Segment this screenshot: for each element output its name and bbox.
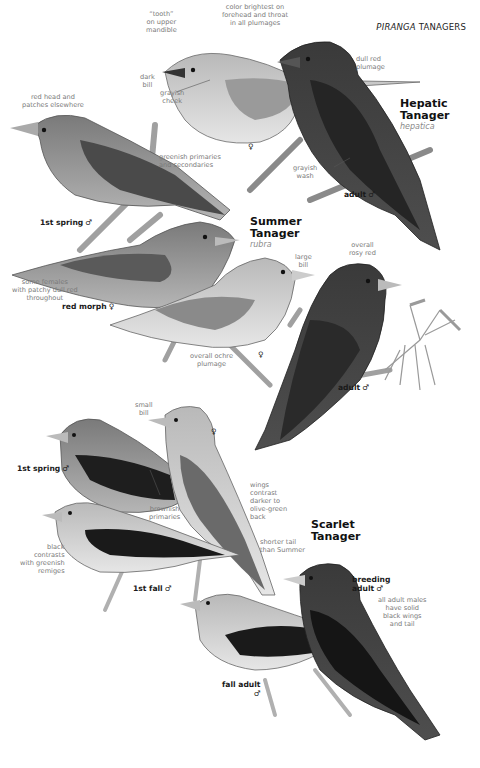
note-grayish-cheek: grayishcheek (160, 89, 184, 105)
note-overall-ochre: overall ochreplumage (190, 352, 233, 368)
note-black-contrasts: blackcontrastswith greenishremiges (20, 543, 65, 575)
note-wings-contrast: wingscontrastdarker toolive-greenback (250, 481, 287, 521)
header-group: TANAGERS (416, 22, 466, 32)
note-overall-rosy: overallrosy red (349, 241, 376, 257)
note-red-head: red head andpatches elsewhere (22, 93, 84, 109)
label-summer-adult-male: adult♂ (338, 383, 369, 392)
page-header: PIRANGA TANAGERS (376, 22, 466, 32)
note-color-brightest: color brightest onforehead and throatin … (222, 3, 288, 27)
label-summer-red-morph-female: red morph♀ (62, 302, 114, 311)
label-hepatic-female: ♀ (246, 142, 254, 151)
label-scarlet-1st-spring-male: 1st spring♂ (17, 464, 69, 473)
latin-name-hepatic: hepatica (400, 122, 435, 131)
species-title-summer: Summer Tanager (250, 216, 302, 240)
note-dark-bill: darkbill (140, 73, 155, 89)
note-grayish-wash: grayishwash (293, 164, 317, 180)
note-greenish-primaries: greenish primariesand secondaries (159, 153, 221, 169)
label-scarlet-female: ♀ (209, 427, 217, 436)
note-shorter-tail: shorter tailthan Summer (260, 538, 305, 554)
note-all-adult-males: all adult maleshave solidblack wingsand … (378, 596, 427, 628)
label-scarlet-fall-adult-male: fall adult ♂ (222, 680, 260, 698)
label-scarlet-1st-fall-male: 1st fall♂ (133, 584, 172, 593)
label-hepatic-adult-male: adult♂ (344, 190, 375, 199)
field-guide-page: PIRANGA TANAGERS Hepatic Tanager hepatic… (0, 0, 480, 768)
label-summer-1st-spring-male: 1st spring♂ (40, 218, 92, 227)
label-summer-female: ♀ (256, 350, 264, 359)
species-title-scarlet: Scarlet Tanager (311, 519, 361, 543)
note-tooth: “tooth”on uppermandible (146, 10, 177, 34)
note-large-bill: largebill (295, 253, 312, 269)
note-some-females: some femaleswith patchy dull redthrougho… (12, 278, 78, 302)
genus-name: PIRANGA (376, 22, 416, 32)
oak-catkin-sprig (385, 300, 460, 390)
latin-name-summer: rubra (250, 240, 272, 249)
note-dull-red: dull redplumage (356, 55, 385, 71)
note-brownish-primaries: brownishprimaries (149, 505, 180, 521)
label-scarlet-breeding-adult-male: breeding adult♂ (352, 575, 390, 593)
note-small-bill: smallbill (135, 401, 153, 417)
species-title-hepatic: Hepatic Tanager (400, 98, 450, 122)
